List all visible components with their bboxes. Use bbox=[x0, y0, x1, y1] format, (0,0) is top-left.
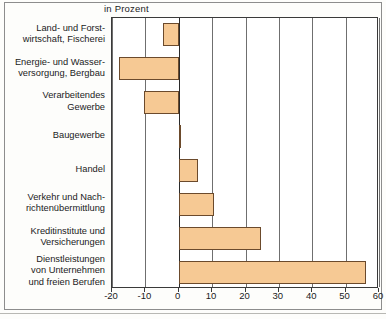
x-tick-mark bbox=[345, 288, 346, 292]
x-tick-mark bbox=[378, 288, 379, 292]
category-label: Verarbeitendes Gewerbe bbox=[4, 90, 105, 112]
bar bbox=[179, 227, 261, 250]
category-label: Verkehr und Nach- richtenübermittlung bbox=[4, 192, 105, 214]
category-label: Dienstleistungen von Unternehmen und fre… bbox=[4, 254, 105, 288]
figure-bottom-rule bbox=[0, 313, 386, 314]
category-label: Baugewerbe bbox=[4, 130, 105, 141]
x-axis-tick-labels: -20-100102030405060 bbox=[111, 290, 378, 306]
category-label: Energie- und Wasser- versorgung, Bergbau bbox=[4, 57, 105, 79]
x-tick-mark bbox=[278, 288, 279, 292]
x-tick-mark bbox=[178, 288, 179, 292]
category-label: Land- und Forst- wirtschaft, Fischerei bbox=[4, 23, 105, 45]
bar bbox=[179, 261, 366, 284]
x-tick-mark bbox=[245, 288, 246, 292]
bars-layer bbox=[112, 18, 377, 287]
x-tick-mark bbox=[211, 288, 212, 292]
bar bbox=[179, 193, 214, 216]
chart-title: in Prozent bbox=[104, 3, 149, 14]
x-tick-mark bbox=[144, 288, 145, 292]
bar bbox=[144, 91, 179, 114]
category-label: Handel bbox=[4, 164, 105, 175]
bar bbox=[179, 125, 181, 148]
bar bbox=[119, 57, 178, 80]
x-tick-mark bbox=[311, 288, 312, 292]
category-label: Kreditinstitute und Versicherungen bbox=[4, 226, 105, 248]
bar bbox=[163, 23, 179, 46]
bar bbox=[179, 159, 198, 182]
x-tick-mark bbox=[111, 288, 112, 292]
gridline-60 bbox=[379, 18, 380, 287]
chart-figure: in Prozent Land- und Forst- wirtschaft, … bbox=[0, 0, 386, 319]
plot-area bbox=[111, 17, 378, 288]
category-axis-labels: Land- und Forst- wirtschaft, FischereiEn… bbox=[4, 17, 111, 288]
